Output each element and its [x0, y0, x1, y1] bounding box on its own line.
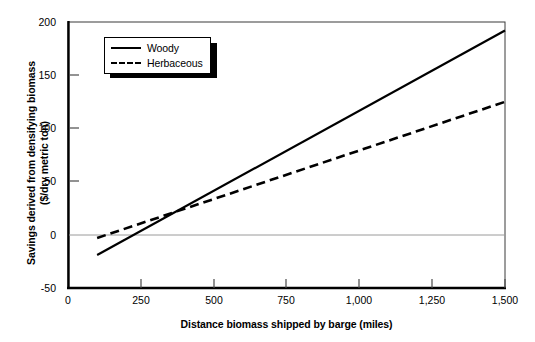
dashed-line-key: [111, 57, 141, 69]
chart-container: Savings derived from densifying biomass …: [0, 0, 535, 342]
legend[interactable]: Woody Herbaceous: [104, 37, 211, 74]
legend-label-herbaceous: Herbaceous: [147, 57, 203, 69]
legend-label-woody: Woody: [147, 42, 179, 54]
plot-area: [0, 0, 535, 342]
legend-item-woody[interactable]: Woody: [111, 41, 179, 55]
solid-line-key: [111, 42, 141, 54]
legend-shadow-right: [211, 43, 217, 78]
legend-shadow-bottom: [110, 74, 217, 78]
legend-item-herbaceous[interactable]: Herbaceous: [111, 56, 203, 70]
